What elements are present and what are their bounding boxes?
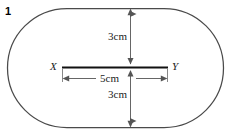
dimension-label-segment-length: 5cm (100, 73, 119, 84)
question-number: 1 (5, 6, 11, 17)
point-label-x: X (50, 61, 57, 72)
dimension-label-bottom-height: 3cm (108, 89, 127, 100)
geometry-figure: 1 3cm 5cm 3cm X Y (0, 0, 233, 136)
point-label-y: Y (172, 61, 178, 72)
figure-drawing (0, 0, 233, 136)
dimension-label-top-height: 3cm (108, 31, 127, 42)
